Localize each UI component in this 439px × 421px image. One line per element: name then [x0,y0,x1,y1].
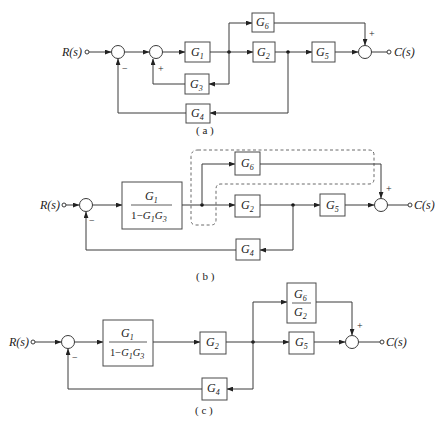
input-terminal-b [62,203,66,207]
block-g6-b: G6 [235,152,260,175]
summing-junction-c2 [346,336,359,349]
caption-c: ( c ) [195,404,213,417]
sign-plus-b2: + [386,183,392,194]
block-g4-a: G4 [186,104,210,123]
summing-junction-a3 [359,46,372,59]
diagram-c: R(s) G1 1−G1G3 G2 G6 G2 + G5 [8,283,407,417]
caption-a: ( a ) [196,124,214,137]
output-label-a: C(s) [394,45,415,59]
input-label-b: R(s) [39,198,60,212]
block-diagram-figure: R(s) G1 G6 + G2 G5 [0,0,439,421]
sign-plus-c2: + [357,320,363,331]
input-label-c: R(s) [8,335,29,349]
block-g6-over-g2-c: G6 G2 [287,283,316,323]
summing-junction-b1 [80,199,93,212]
block-closed-loop-g1-g3-b: G1 1−G1G3 [122,182,182,229]
caption-b: ( b ) [196,270,215,283]
block-g5-c: G5 [289,332,314,354]
block-g1-a: G1 [185,42,210,62]
block-g3-a: G3 [185,74,209,94]
diagram-b: R(s) G1 1−G1G3 G6 + G2 G5 [39,150,435,283]
block-g4-b: G4 [236,239,260,260]
sign-minus-b1: − [89,215,95,226]
block-g2-a: G2 [253,42,275,62]
output-label-b: C(s) [414,198,435,212]
block-g5-a: G5 [312,42,335,62]
block-g6-a: G6 [252,13,274,32]
block-g2-b: G2 [235,195,260,217]
sign-minus-a1: − [122,63,128,74]
sign-minus-c1: − [72,352,78,363]
input-terminal-c [31,340,35,344]
summing-junction-b2 [375,199,388,212]
summing-junction-a1 [112,46,125,59]
input-terminal-a [85,50,89,54]
block-closed-loop-g1-g3-c: G1 1−G1G3 [103,320,153,366]
output-terminal-c [380,340,384,344]
sign-plus-a3: + [369,28,375,39]
block-g4-c: G4 [202,378,227,400]
input-label-a: R(s) [61,45,82,59]
block-g5-b: G5 [320,194,345,216]
diagram-a: R(s) G1 G6 + G2 G5 [61,13,415,137]
dashed-move-region [191,150,374,225]
block-g2-c: G2 [200,332,226,354]
sign-plus-a2: + [158,63,164,74]
summing-junction-c1 [62,336,75,349]
summing-junction-a2 [150,46,163,59]
output-label-c: C(s) [386,335,407,349]
output-terminal-b [408,203,412,207]
output-terminal-a [387,50,391,54]
